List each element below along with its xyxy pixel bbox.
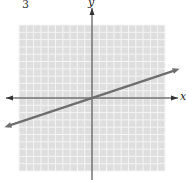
coordinate-plane: [0, 0, 186, 180]
x-axis-arrow-left-icon: [6, 96, 13, 101]
y-axis-arrow-up-icon: [90, 8, 95, 15]
x-axis-arrow-right-icon: [171, 96, 178, 101]
line-arrow-left-icon: [4, 122, 12, 128]
line-arrow-right-icon: [172, 68, 180, 74]
